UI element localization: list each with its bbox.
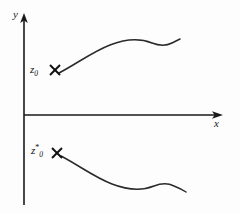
complex-plane-trajectory-diagram: y x z0 z*0 bbox=[0, 0, 240, 213]
z0-label-subscript: 0 bbox=[34, 69, 38, 78]
z0-star-marker-x-icon bbox=[52, 148, 62, 158]
y-axis-label: y bbox=[13, 9, 18, 20]
z0-star-point-label: z*0 bbox=[31, 145, 43, 156]
x-axis-label: x bbox=[214, 118, 219, 129]
lower-trajectory-curve bbox=[61, 156, 186, 192]
z0-marker-x-icon bbox=[50, 65, 60, 75]
z0-point-label: z0 bbox=[30, 64, 38, 75]
z0-star-label-subscript: 0 bbox=[39, 150, 43, 159]
upper-trajectory-curve bbox=[59, 39, 180, 73]
diagram-canvas bbox=[0, 0, 240, 213]
